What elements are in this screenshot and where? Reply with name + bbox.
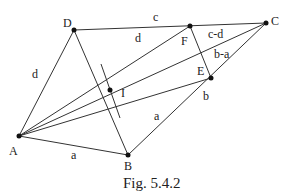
geometry-figure: A B C D E F I c d c-d b-a b d a a Fig. 5… — [0, 0, 290, 193]
point-c — [264, 21, 269, 26]
point-f — [188, 24, 193, 29]
label-e: E — [197, 64, 204, 78]
label-dc: c — [153, 10, 158, 24]
label-df: d — [135, 31, 141, 45]
point-i — [108, 88, 113, 93]
figure-caption: Fig. 5.4.2 — [123, 175, 181, 191]
segment-ae — [19, 78, 211, 136]
label-f: F — [181, 34, 188, 48]
segment-dc — [74, 23, 266, 30]
segment-af — [19, 26, 190, 136]
label-i: I — [121, 86, 125, 100]
segment-da — [19, 30, 74, 136]
label-fc: c-d — [208, 27, 223, 41]
label-be: b — [203, 89, 209, 103]
point-b — [126, 153, 131, 158]
point-e — [209, 76, 214, 81]
label-ec: b-a — [214, 47, 230, 61]
label-ab: a — [71, 148, 77, 162]
label-d: D — [63, 16, 72, 30]
label-a: A — [9, 144, 18, 158]
label-ie: a — [154, 109, 160, 123]
segment-db — [74, 30, 128, 155]
point-a — [17, 134, 22, 139]
label-c: C — [271, 14, 279, 28]
point-d — [72, 28, 77, 33]
label-ad: d — [32, 67, 38, 81]
label-b: B — [124, 159, 132, 173]
segment-ac — [19, 23, 266, 136]
